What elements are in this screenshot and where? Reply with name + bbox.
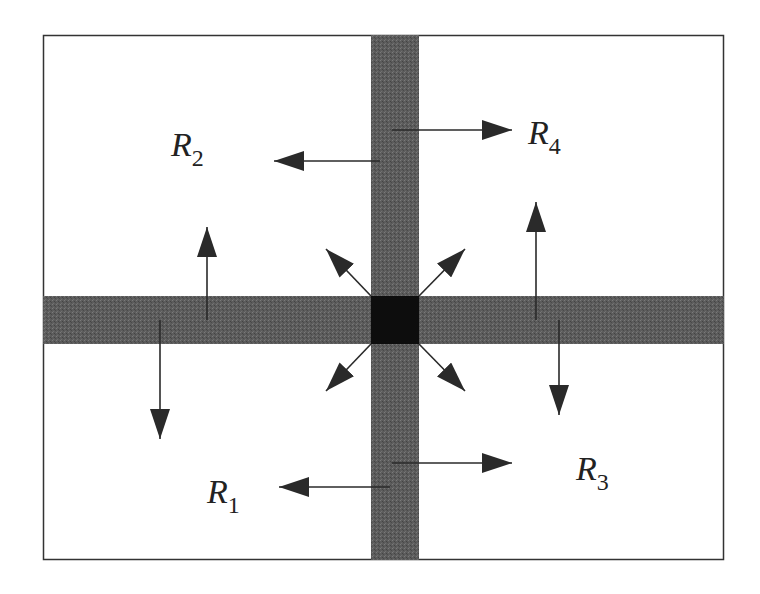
label-base: R [576, 450, 597, 487]
label-base: R [207, 473, 228, 510]
label-subscript: 3 [597, 469, 609, 495]
region-label-r1: R1 [207, 475, 240, 517]
center-intersection [371, 296, 419, 344]
label-base: R [171, 126, 192, 163]
label-subscript: 1 [228, 492, 240, 518]
region-label-r2: R2 [171, 128, 204, 170]
label-subscript: 2 [192, 145, 204, 171]
region-diagram [0, 0, 760, 594]
region-label-r3: R3 [576, 452, 609, 494]
label-subscript: 4 [549, 133, 561, 159]
region-label-r4: R4 [528, 116, 561, 158]
label-base: R [528, 114, 549, 151]
